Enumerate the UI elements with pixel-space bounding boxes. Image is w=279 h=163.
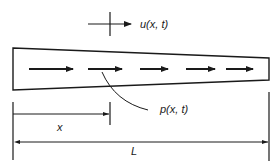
load-leader-line — [102, 72, 148, 110]
tapered-bar-diagram: u(x, t) p(x, t) x L — [0, 0, 279, 163]
length-start-arrowhead-icon — [14, 140, 20, 144]
position-label: x — [56, 121, 63, 133]
length-label: L — [131, 145, 137, 157]
displacement-symbol — [88, 12, 131, 36]
load-label: p(x, t) — [159, 103, 188, 115]
displacement-label: u(x, t) — [140, 18, 168, 30]
